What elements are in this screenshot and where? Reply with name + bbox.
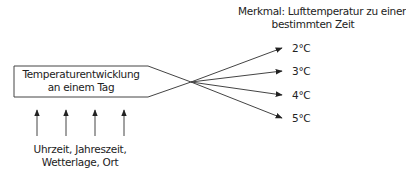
feature-label-line1: Merkmal: Lufttemperatur zu einer — [238, 5, 388, 18]
box-label-line1: Temperaturentwicklung — [14, 68, 148, 81]
outcome-label-1: 2°C — [292, 42, 310, 55]
feature-label-line2: bestimmten Zeit — [238, 18, 388, 31]
feature-label: Merkmal: Lufttemperatur zu einer bestimm… — [238, 5, 388, 31]
factors-label: Uhrzeit, Jahreszeit, Wetterlage, Ort — [20, 143, 140, 169]
factors-label-line2: Wetterlage, Ort — [20, 156, 140, 169]
outcome-label-4: 5°C — [292, 112, 310, 125]
outcome-arrow-4 — [191, 82, 282, 118]
outcome-label-3: 4°C — [292, 89, 310, 102]
factors-label-line1: Uhrzeit, Jahreszeit, — [20, 143, 140, 156]
outcome-label-2: 3°C — [292, 65, 310, 78]
box-label: Temperaturentwicklung an einem Tag — [14, 68, 148, 94]
outcome-arrow-3 — [191, 82, 282, 95]
box-label-line2: an einem Tag — [14, 81, 148, 94]
